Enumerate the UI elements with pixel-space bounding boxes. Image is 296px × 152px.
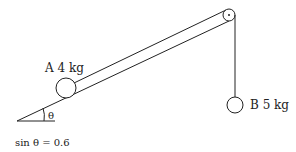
block-b (227, 97, 243, 113)
label-block-b: B 5 kg (250, 98, 289, 112)
rope-incline (74, 10, 226, 83)
label-block-a: A 4 kg (44, 61, 84, 75)
label-angle: θ (48, 110, 54, 121)
diagram-canvas: A 4 kg B 5 kg θ sin θ = 0.6 (0, 0, 296, 152)
block-a (56, 78, 76, 98)
pulley-axle-icon (228, 14, 230, 16)
label-given: sin θ = 0.6 (15, 137, 70, 148)
angle-arc (43, 108, 44, 121)
